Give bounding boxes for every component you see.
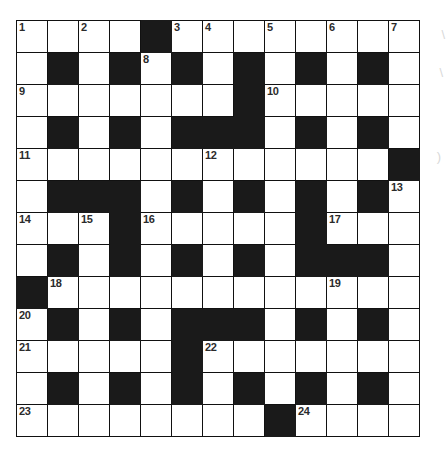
crossword-open-cell[interactable]: 16 [141,213,172,245]
crossword-open-cell[interactable] [358,341,389,373]
crossword-open-cell[interactable] [48,85,79,117]
crossword-open-cell[interactable] [265,149,296,181]
crossword-open-cell[interactable] [48,341,79,373]
crossword-open-cell[interactable] [327,117,358,149]
crossword-open-cell[interactable]: 1 [17,21,48,53]
crossword-open-cell[interactable]: 17 [327,213,358,245]
crossword-open-cell[interactable] [389,341,420,373]
crossword-open-cell[interactable] [79,277,110,309]
crossword-open-cell[interactable] [110,405,141,437]
crossword-open-cell[interactable] [265,117,296,149]
crossword-open-cell[interactable] [234,149,265,181]
crossword-open-cell[interactable] [389,373,420,405]
crossword-open-cell[interactable] [296,277,327,309]
crossword-open-cell[interactable] [17,245,48,277]
crossword-open-cell[interactable] [234,405,265,437]
crossword-open-cell[interactable] [79,53,110,85]
crossword-open-cell[interactable] [389,277,420,309]
crossword-open-cell[interactable] [17,117,48,149]
crossword-open-cell[interactable] [389,85,420,117]
crossword-open-cell[interactable] [17,181,48,213]
crossword-open-cell[interactable] [17,373,48,405]
crossword-open-cell[interactable] [172,213,203,245]
crossword-open-cell[interactable] [141,373,172,405]
crossword-open-cell[interactable] [389,213,420,245]
crossword-open-cell[interactable] [172,85,203,117]
crossword-open-cell[interactable] [79,373,110,405]
crossword-grid[interactable]: 123456789101112131415161718192021222324 [16,20,420,437]
crossword-open-cell[interactable] [141,149,172,181]
crossword-open-cell[interactable] [48,405,79,437]
crossword-open-cell[interactable]: 8 [141,53,172,85]
crossword-open-cell[interactable]: 7 [389,21,420,53]
crossword-open-cell[interactable] [141,405,172,437]
crossword-open-cell[interactable] [265,245,296,277]
crossword-open-cell[interactable] [48,213,79,245]
crossword-open-cell[interactable] [172,277,203,309]
crossword-open-cell[interactable] [172,149,203,181]
crossword-open-cell[interactable] [79,85,110,117]
crossword-open-cell[interactable] [358,149,389,181]
crossword-open-cell[interactable] [265,53,296,85]
crossword-open-cell[interactable] [265,373,296,405]
crossword-open-cell[interactable] [141,117,172,149]
crossword-open-cell[interactable]: 3 [172,21,203,53]
crossword-open-cell[interactable] [327,341,358,373]
crossword-open-cell[interactable] [296,341,327,373]
crossword-open-cell[interactable] [141,181,172,213]
crossword-open-cell[interactable]: 2 [79,21,110,53]
crossword-open-cell[interactable] [203,53,234,85]
crossword-open-cell[interactable] [327,405,358,437]
crossword-open-cell[interactable]: 18 [48,277,79,309]
crossword-open-cell[interactable] [48,149,79,181]
crossword-open-cell[interactable]: 21 [17,341,48,373]
crossword-open-cell[interactable] [358,213,389,245]
crossword-open-cell[interactable] [203,405,234,437]
crossword-open-cell[interactable] [141,277,172,309]
crossword-open-cell[interactable] [327,85,358,117]
crossword-open-cell[interactable] [265,213,296,245]
crossword-open-cell[interactable] [265,181,296,213]
crossword-open-cell[interactable] [203,373,234,405]
crossword-open-cell[interactable] [203,277,234,309]
crossword-open-cell[interactable] [79,309,110,341]
crossword-open-cell[interactable] [389,405,420,437]
crossword-open-cell[interactable] [141,245,172,277]
crossword-open-cell[interactable]: 11 [17,149,48,181]
crossword-open-cell[interactable]: 6 [327,21,358,53]
crossword-open-cell[interactable] [234,277,265,309]
crossword-open-cell[interactable] [110,277,141,309]
crossword-open-cell[interactable] [358,405,389,437]
crossword-open-cell[interactable] [389,117,420,149]
crossword-open-cell[interactable]: 13 [389,181,420,213]
crossword-open-cell[interactable] [296,85,327,117]
crossword-open-cell[interactable] [172,405,203,437]
crossword-open-cell[interactable] [110,21,141,53]
crossword-open-cell[interactable] [296,21,327,53]
crossword-open-cell[interactable]: 14 [17,213,48,245]
crossword-open-cell[interactable] [265,341,296,373]
crossword-open-cell[interactable] [389,245,420,277]
crossword-open-cell[interactable]: 20 [17,309,48,341]
crossword-open-cell[interactable] [327,309,358,341]
crossword-open-cell[interactable]: 15 [79,213,110,245]
crossword-open-cell[interactable] [327,53,358,85]
crossword-open-cell[interactable] [141,309,172,341]
crossword-open-cell[interactable] [79,405,110,437]
crossword-open-cell[interactable]: 12 [203,149,234,181]
crossword-open-cell[interactable] [141,85,172,117]
crossword-open-cell[interactable] [110,341,141,373]
crossword-open-cell[interactable] [79,117,110,149]
crossword-open-cell[interactable]: 10 [265,85,296,117]
crossword-open-cell[interactable] [389,53,420,85]
crossword-open-cell[interactable]: 19 [327,277,358,309]
crossword-open-cell[interactable] [79,149,110,181]
crossword-open-cell[interactable] [203,181,234,213]
crossword-open-cell[interactable] [203,245,234,277]
crossword-open-cell[interactable] [358,21,389,53]
crossword-open-cell[interactable]: 22 [203,341,234,373]
crossword-open-cell[interactable] [141,341,172,373]
crossword-open-cell[interactable] [110,149,141,181]
crossword-open-cell[interactable] [79,341,110,373]
crossword-open-cell[interactable] [265,309,296,341]
